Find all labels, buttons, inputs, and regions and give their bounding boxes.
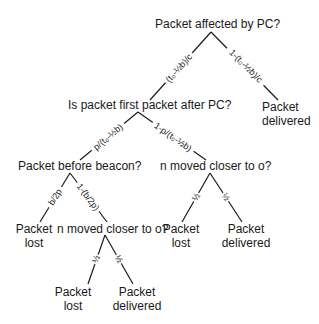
leaf-line-1: Packet [109, 286, 165, 300]
leaf-line-1: Packet [262, 101, 298, 115]
edge-label-first-left: p/(t₀-½b) [91, 122, 124, 152]
node-moved-closer-bottom: n moved closer to o? [57, 223, 168, 236]
leaf-line-2: lost [14, 237, 54, 251]
leaf-line-1: Packet [161, 223, 201, 237]
node-moved-closer-right: n moved closer to o? [160, 160, 271, 173]
leaf-line-2: lost [161, 237, 201, 251]
node-first-packet: Is packet first packet after PC? [68, 99, 231, 112]
leaf-line-2: delivered [109, 300, 165, 314]
leaf-right-lost: Packet lost [161, 223, 201, 250]
leaf-line-2: lost [53, 300, 93, 314]
leaf-line-2: delivered [262, 115, 298, 129]
edge-label-beacon-right: 1-(b/2p) [75, 181, 102, 212]
leaf-beacon-lost: Packet lost [14, 223, 54, 250]
decision-tree: (t₀-½b)/c 1-(t₀-½b)/c p/(t₀-½b) 1-p/(t₀-… [0, 0, 319, 324]
leaf-bottom-lost: Packet lost [53, 286, 93, 313]
edge-label-root-left: (t₀-½b)/c [164, 51, 195, 84]
edge-label-first-right: 1-p/(t₀-½b) [152, 121, 193, 154]
leaf-line-1: Packet [53, 286, 93, 300]
node-before-beacon: Packet before beacon? [18, 160, 141, 173]
node-packet-affected: Packet affected by PC? [155, 18, 280, 31]
edge-label-root-right: 1-(t₀-½b)/c [227, 47, 265, 85]
leaf-line-1: Packet [218, 223, 274, 237]
leaf-line-2: delivered [218, 237, 274, 251]
leaf-bottom-delivered: Packet delivered [109, 286, 165, 313]
leaf-root-delivered: Packet delivered [262, 101, 298, 128]
leaf-line-1: Packet [14, 223, 54, 237]
leaf-right-delivered: Packet delivered [218, 223, 274, 250]
